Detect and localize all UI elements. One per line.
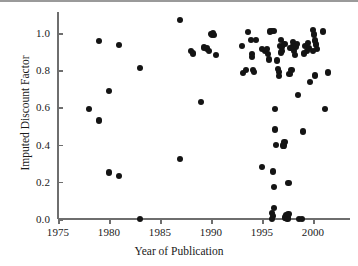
data-point xyxy=(272,126,278,132)
data-point xyxy=(239,43,245,49)
x-axis-tick xyxy=(262,219,264,224)
data-point xyxy=(271,184,277,190)
data-point xyxy=(86,106,92,112)
data-point xyxy=(325,69,331,75)
y-axis-tick xyxy=(58,219,63,221)
data-point xyxy=(278,49,284,55)
data-point xyxy=(96,38,102,44)
plot-data-area xyxy=(58,12,350,219)
x-axis-tick-label: 1980 xyxy=(89,226,129,238)
data-point xyxy=(288,67,294,73)
data-point xyxy=(251,69,257,75)
x-axis-tick-label: 1995 xyxy=(242,226,282,238)
data-point xyxy=(259,46,265,52)
data-point xyxy=(266,56,272,62)
top-scan-rule xyxy=(0,0,358,2)
data-point xyxy=(137,65,143,71)
data-point xyxy=(276,73,282,79)
data-point xyxy=(271,205,277,211)
data-point xyxy=(299,216,305,222)
x-axis-tick xyxy=(313,219,315,224)
x-axis-tick xyxy=(109,219,111,224)
data-point xyxy=(301,50,307,56)
data-point xyxy=(213,52,219,58)
data-point xyxy=(285,211,291,217)
data-point xyxy=(206,48,212,54)
y-axis-tick-label: 0.0 xyxy=(18,213,50,225)
data-point xyxy=(116,42,122,48)
scatter-plot-figure: 1975198019851990199520000.00.20.40.60.81… xyxy=(0,0,358,266)
data-point xyxy=(287,45,293,51)
data-point xyxy=(137,216,143,222)
data-point xyxy=(270,168,276,174)
data-point xyxy=(310,48,316,54)
data-point xyxy=(272,106,278,112)
data-point xyxy=(245,29,251,35)
data-point xyxy=(96,117,102,123)
data-point xyxy=(211,32,217,38)
data-point xyxy=(300,128,306,134)
x-axis-title: Year of Publication xyxy=(0,245,358,257)
data-point xyxy=(274,57,280,63)
x-axis-tick-label: 1985 xyxy=(140,226,180,238)
data-point xyxy=(198,99,204,105)
data-point xyxy=(177,156,183,162)
data-point xyxy=(259,164,265,170)
data-point xyxy=(307,79,313,85)
x-axis-tick xyxy=(160,219,162,224)
x-axis-tick-label: 1990 xyxy=(191,226,231,238)
data-point xyxy=(269,216,275,222)
data-point xyxy=(322,106,328,112)
data-point xyxy=(292,52,298,58)
y-axis-title: Imputed Discount Factor xyxy=(19,13,31,213)
data-point xyxy=(249,54,255,60)
data-point xyxy=(281,139,287,145)
data-point xyxy=(253,37,259,43)
x-axis-tick-label: 1975 xyxy=(38,226,78,238)
data-point xyxy=(190,50,196,56)
data-point xyxy=(312,72,318,78)
data-point xyxy=(177,17,183,23)
data-point xyxy=(243,67,249,73)
data-point xyxy=(273,142,279,148)
data-point xyxy=(106,169,112,175)
data-point xyxy=(116,173,122,179)
data-point xyxy=(285,180,291,186)
data-point xyxy=(271,28,277,34)
data-point xyxy=(320,28,326,34)
x-axis-tick xyxy=(211,219,213,224)
x-axis-tick-label: 2000 xyxy=(293,226,333,238)
data-point xyxy=(295,92,301,98)
data-point xyxy=(106,88,112,94)
